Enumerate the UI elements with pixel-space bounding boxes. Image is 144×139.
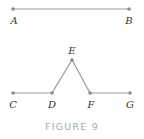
point-a bbox=[11, 7, 15, 11]
point-b bbox=[127, 7, 131, 11]
point-c bbox=[11, 91, 15, 95]
path-cdefg bbox=[13, 60, 130, 93]
figure-caption: FIGURE 9 bbox=[0, 121, 144, 132]
label-d: D bbox=[47, 99, 56, 110]
label-f: F bbox=[87, 99, 96, 110]
figure-diagram: A B C D E F G bbox=[0, 0, 144, 139]
label-c: C bbox=[9, 99, 17, 110]
label-a: A bbox=[9, 15, 17, 26]
point-d bbox=[50, 91, 54, 95]
point-g bbox=[128, 91, 132, 95]
point-f bbox=[88, 91, 92, 95]
label-e: E bbox=[67, 45, 76, 56]
label-b: B bbox=[124, 15, 132, 26]
label-g: G bbox=[126, 99, 134, 110]
point-e bbox=[70, 58, 74, 62]
